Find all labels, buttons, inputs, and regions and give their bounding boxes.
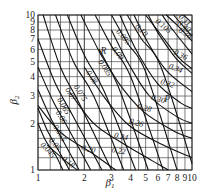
point-label-R: R <box>100 46 107 56</box>
x-axis-ticks: 12345678910 <box>36 173 197 183</box>
y-axis-ticks: 12345678910 <box>26 10 36 175</box>
curve-label: 0.24 <box>113 131 129 143</box>
x-tick-label: 8 <box>175 173 180 183</box>
y-tick-label: 3 <box>30 91 35 101</box>
x-tick-label: 1 <box>36 173 41 183</box>
curve-label: 0.28 <box>137 102 153 115</box>
y-tick-label: 4 <box>30 72 35 82</box>
x-tick-label: 2 <box>82 173 87 183</box>
x-tick-label: 6 <box>155 173 160 183</box>
curve-label: 0.22 <box>111 145 126 156</box>
curve-label: 0.09 <box>110 45 126 62</box>
y-tick-label: 7 <box>30 34 35 44</box>
curve-0_10 <box>127 15 192 164</box>
curve-label: 0.36 <box>172 48 189 62</box>
point-label-P: P <box>163 94 170 104</box>
curve-label: 0.10 <box>133 22 149 38</box>
x-tick-label: 10 <box>187 173 197 183</box>
y-tick-label: 2 <box>30 119 35 129</box>
chart-canvas: 0.0450.050.180.0550.060.0650.070.0750.08… <box>0 0 221 194</box>
y-tick-label: 10 <box>26 10 36 20</box>
curve-label: 0.20 <box>80 143 96 155</box>
y-tick-label: 6 <box>30 45 35 55</box>
y-tick-label: 5 <box>30 57 35 67</box>
y-axis-label: β2 <box>7 95 21 105</box>
x-tick-label: 7 <box>166 173 171 183</box>
y-tick-label: 1 <box>30 165 35 175</box>
x-tick-label: 5 <box>143 173 148 183</box>
x-tick-label: 4 <box>128 173 133 183</box>
curve-label: 0.085 <box>96 58 114 78</box>
